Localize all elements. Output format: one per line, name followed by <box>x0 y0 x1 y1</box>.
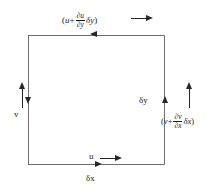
delta-y-label: δy <box>139 96 148 105</box>
right-velocity-expression: (v+∂v∂xδx) <box>161 113 194 131</box>
control-volume-diagram: (u+∂u∂yδy) δy (v+∂v∂xδx) v u δx <box>0 0 221 196</box>
top-partial-fraction: ∂u∂y <box>76 12 85 30</box>
top-fraction-denominator: ∂y <box>76 21 85 29</box>
top-plus-sign: + <box>70 15 75 25</box>
left-v-label: v <box>14 110 19 119</box>
right-close-paren: ) <box>191 116 194 126</box>
right-partial-fraction: ∂v∂x <box>173 113 182 131</box>
right-edge-arrowhead <box>162 96 168 103</box>
top-differential: δy <box>86 15 94 25</box>
bottom-edge-arrowhead <box>95 161 102 167</box>
top-velocity-arrow <box>131 18 147 19</box>
right-fraction-denominator: ∂x <box>173 122 182 130</box>
bottom-u-label: u <box>89 152 94 161</box>
top-edge-arrowhead <box>90 31 97 37</box>
top-velocity-expression: (u+∂u∂yδy) <box>62 12 97 30</box>
right-velocity-arrow <box>189 88 190 108</box>
top-close-paren: ) <box>94 15 97 25</box>
right-plus-sign: + <box>168 116 173 126</box>
delta-x-label: δx <box>86 174 95 183</box>
bottom-velocity-arrow <box>100 158 116 159</box>
left-edge-arrowhead <box>25 97 31 104</box>
left-velocity-arrow <box>22 88 23 108</box>
